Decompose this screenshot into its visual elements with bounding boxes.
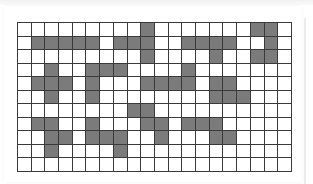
grid-cell-r6-c14[interactable] bbox=[210, 104, 223, 117]
grid-cell-r2-c6[interactable] bbox=[100, 50, 113, 63]
grid-cell-r9-c4[interactable] bbox=[73, 145, 86, 158]
grid-cell-r7-c8[interactable] bbox=[128, 118, 141, 131]
grid-cell-r10-c2[interactable] bbox=[45, 158, 58, 171]
grid-cell-r1-c12[interactable] bbox=[182, 37, 195, 50]
grid-cell-r6-c19[interactable] bbox=[278, 104, 291, 117]
grid-cell-r1-c7[interactable] bbox=[114, 37, 127, 50]
grid-cell-r1-c19[interactable] bbox=[278, 37, 291, 50]
grid-cell-r7-c9[interactable] bbox=[141, 118, 154, 131]
grid-cell-r4-c3[interactable] bbox=[59, 77, 72, 90]
grid-cell-r4-c8[interactable] bbox=[128, 77, 141, 90]
grid-cell-r3-c3[interactable] bbox=[59, 64, 72, 77]
grid-cell-r8-c15[interactable] bbox=[223, 131, 236, 144]
grid-cell-r3-c18[interactable] bbox=[265, 64, 278, 77]
grid-cell-r9-c10[interactable] bbox=[155, 145, 168, 158]
grid-cell-r8-c1[interactable] bbox=[32, 131, 45, 144]
grid-cell-r6-c12[interactable] bbox=[182, 104, 195, 117]
grid-cell-r0-c14[interactable] bbox=[210, 23, 223, 36]
grid-cell-r7-c12[interactable] bbox=[182, 118, 195, 131]
grid-cell-r1-c0[interactable] bbox=[18, 37, 31, 50]
grid-cell-r10-c10[interactable] bbox=[155, 158, 168, 171]
grid-cell-r0-c0[interactable] bbox=[18, 23, 31, 36]
grid-cell-r3-c5[interactable] bbox=[86, 64, 99, 77]
grid-cell-r5-c14[interactable] bbox=[210, 91, 223, 104]
grid-cell-r8-c4[interactable] bbox=[73, 131, 86, 144]
grid-cell-r6-c7[interactable] bbox=[114, 104, 127, 117]
grid-cell-r5-c2[interactable] bbox=[45, 91, 58, 104]
grid-cell-r8-c3[interactable] bbox=[59, 131, 72, 144]
grid-cell-r8-c11[interactable] bbox=[169, 131, 182, 144]
grid-cell-r2-c4[interactable] bbox=[73, 50, 86, 63]
grid-cell-r10-c11[interactable] bbox=[169, 158, 182, 171]
grid-cell-r7-c4[interactable] bbox=[73, 118, 86, 131]
grid-cell-r10-c1[interactable] bbox=[32, 158, 45, 171]
grid-cell-r9-c18[interactable] bbox=[265, 145, 278, 158]
grid-cell-r6-c15[interactable] bbox=[223, 104, 236, 117]
grid-cell-r7-c15[interactable] bbox=[223, 118, 236, 131]
grid-cell-r0-c4[interactable] bbox=[73, 23, 86, 36]
grid-cell-r8-c12[interactable] bbox=[182, 131, 195, 144]
grid-cell-r5-c10[interactable] bbox=[155, 91, 168, 104]
grid-cell-r8-c6[interactable] bbox=[100, 131, 113, 144]
grid-cell-r8-c7[interactable] bbox=[114, 131, 127, 144]
grid-cell-r7-c19[interactable] bbox=[278, 118, 291, 131]
grid-cell-r2-c19[interactable] bbox=[278, 50, 291, 63]
grid-cell-r9-c5[interactable] bbox=[86, 145, 99, 158]
grid-cell-r10-c4[interactable] bbox=[73, 158, 86, 171]
grid-cell-r5-c16[interactable] bbox=[237, 91, 250, 104]
grid-cell-r2-c18[interactable] bbox=[265, 50, 278, 63]
grid-cell-r5-c8[interactable] bbox=[128, 91, 141, 104]
grid-cell-r10-c5[interactable] bbox=[86, 158, 99, 171]
grid-cell-r1-c1[interactable] bbox=[32, 37, 45, 50]
grid-cell-r6-c11[interactable] bbox=[169, 104, 182, 117]
grid-cell-r4-c18[interactable] bbox=[265, 77, 278, 90]
grid-cell-r3-c13[interactable] bbox=[196, 64, 209, 77]
grid-cell-r8-c8[interactable] bbox=[128, 131, 141, 144]
grid-cell-r8-c17[interactable] bbox=[251, 131, 264, 144]
grid-cell-r1-c2[interactable] bbox=[45, 37, 58, 50]
grid-cell-r4-c6[interactable] bbox=[100, 77, 113, 90]
grid-cell-r3-c6[interactable] bbox=[100, 64, 113, 77]
grid-cell-r2-c1[interactable] bbox=[32, 50, 45, 63]
grid-cell-r7-c3[interactable] bbox=[59, 118, 72, 131]
grid-cell-r4-c5[interactable] bbox=[86, 77, 99, 90]
grid-cell-r9-c17[interactable] bbox=[251, 145, 264, 158]
grid-cell-r8-c18[interactable] bbox=[265, 131, 278, 144]
grid-cell-r4-c2[interactable] bbox=[45, 77, 58, 90]
grid-cell-r6-c6[interactable] bbox=[100, 104, 113, 117]
grid-cell-r4-c12[interactable] bbox=[182, 77, 195, 90]
grid-cell-r9-c7[interactable] bbox=[114, 145, 127, 158]
grid-cell-r3-c15[interactable] bbox=[223, 64, 236, 77]
grid-cell-r3-c8[interactable] bbox=[128, 64, 141, 77]
grid-cell-r6-c1[interactable] bbox=[32, 104, 45, 117]
grid-cell-r7-c7[interactable] bbox=[114, 118, 127, 131]
grid-cell-r7-c0[interactable] bbox=[18, 118, 31, 131]
grid-cell-r7-c1[interactable] bbox=[32, 118, 45, 131]
grid-cell-r5-c12[interactable] bbox=[182, 91, 195, 104]
grid-cell-r10-c12[interactable] bbox=[182, 158, 195, 171]
grid-cell-r3-c16[interactable] bbox=[237, 64, 250, 77]
grid-cell-r9-c14[interactable] bbox=[210, 145, 223, 158]
grid-cell-r3-c9[interactable] bbox=[141, 64, 154, 77]
grid-cell-r0-c17[interactable] bbox=[251, 23, 264, 36]
grid-cell-r2-c9[interactable] bbox=[141, 50, 154, 63]
grid-cell-r5-c0[interactable] bbox=[18, 91, 31, 104]
grid-cell-r0-c9[interactable] bbox=[141, 23, 154, 36]
grid-cell-r5-c13[interactable] bbox=[196, 91, 209, 104]
grid-cell-r3-c19[interactable] bbox=[278, 64, 291, 77]
grid-cell-r6-c18[interactable] bbox=[265, 104, 278, 117]
grid-cell-r1-c10[interactable] bbox=[155, 37, 168, 50]
grid-cell-r1-c6[interactable] bbox=[100, 37, 113, 50]
grid-cell-r5-c18[interactable] bbox=[265, 91, 278, 104]
grid-cell-r1-c18[interactable] bbox=[265, 37, 278, 50]
grid-cell-r5-c5[interactable] bbox=[86, 91, 99, 104]
grid-cell-r3-c14[interactable] bbox=[210, 64, 223, 77]
grid-cell-r6-c2[interactable] bbox=[45, 104, 58, 117]
grid-cell-r4-c13[interactable] bbox=[196, 77, 209, 90]
grid-cell-r0-c1[interactable] bbox=[32, 23, 45, 36]
grid-cell-r8-c2[interactable] bbox=[45, 131, 58, 144]
grid-cell-r0-c8[interactable] bbox=[128, 23, 141, 36]
grid-cell-r3-c7[interactable] bbox=[114, 64, 127, 77]
grid-cell-r6-c5[interactable] bbox=[86, 104, 99, 117]
grid-cell-r0-c5[interactable] bbox=[86, 23, 99, 36]
